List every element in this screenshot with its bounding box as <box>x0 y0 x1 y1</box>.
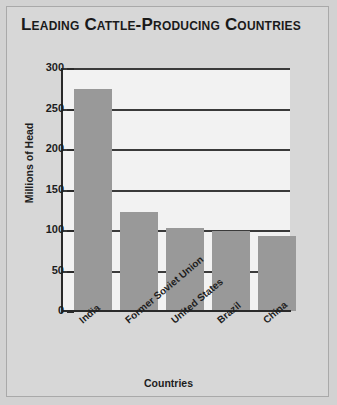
bar <box>74 89 112 311</box>
y-axis-label: Millions of Head <box>23 108 35 218</box>
y-tick-label: 150 <box>34 183 64 195</box>
y-tick-mark <box>67 109 74 111</box>
y-tick-mark <box>67 149 74 151</box>
x-axis-label: Countries <box>7 377 330 389</box>
y-tick-label: 200 <box>34 142 64 154</box>
y-tick-label: 50 <box>34 264 64 276</box>
bar <box>212 231 250 311</box>
bar <box>258 236 296 311</box>
chart-figure: Leading Cattle-Producing Countries 05010… <box>6 6 329 397</box>
x-axis-category-labels: IndiaFormer Soviet UnionUnited StatesBra… <box>62 311 302 381</box>
y-tick-mark <box>67 190 74 192</box>
y-tick-label: 250 <box>34 102 64 114</box>
y-tick-label: 100 <box>34 223 64 235</box>
y-tick-mark <box>67 230 74 232</box>
y-tick-label: 300 <box>34 61 64 73</box>
y-tick-mark <box>67 68 74 70</box>
y-tick-label: 0 <box>34 304 64 316</box>
y-tick-mark <box>67 271 74 273</box>
